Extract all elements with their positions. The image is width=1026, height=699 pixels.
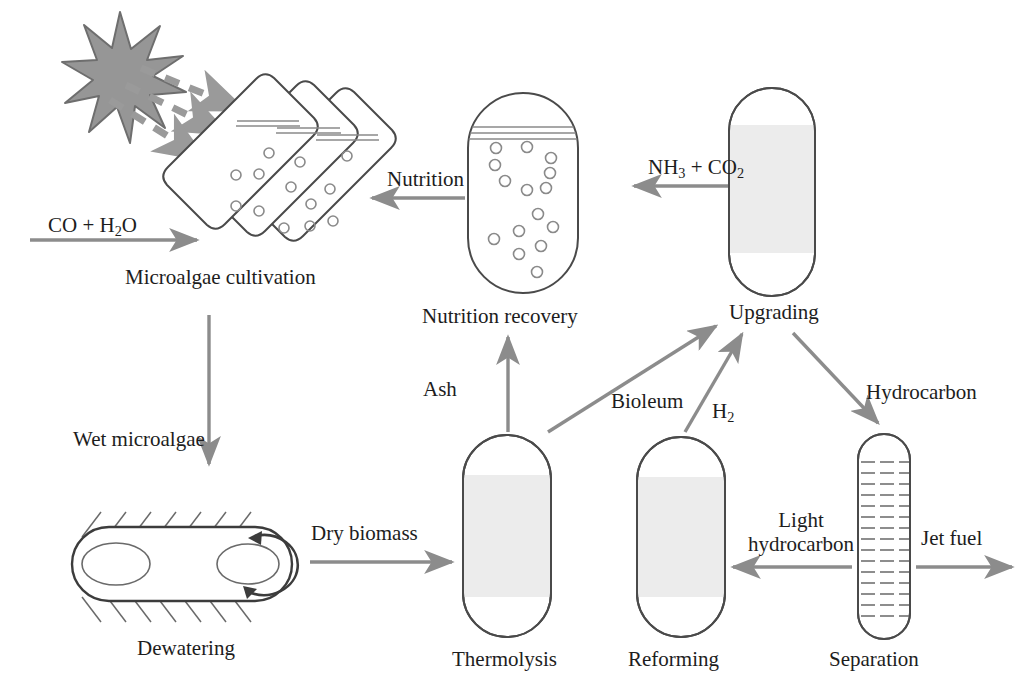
upgrading-vessel-icon: [729, 88, 815, 296]
stream-label-wet-microalgae: Wet microalgae: [73, 428, 205, 452]
dewatering-unit-icon: [72, 512, 298, 622]
nutrition-recovery-vessel-icon: [468, 93, 578, 293]
unit-label-separation: Separation: [829, 648, 919, 672]
unit-label-reforming: Reforming: [628, 648, 719, 672]
unit-label-cultivation: Microalgae cultivation: [125, 266, 316, 290]
stream-label-nutrition: Nutrition: [387, 168, 464, 192]
stream-label-jet-fuel: Jet fuel: [921, 527, 982, 551]
stream-label-bioleum: Bioleum: [611, 390, 683, 414]
unit-label-upgrading: Upgrading: [729, 301, 819, 325]
diagram-artwork: [0, 0, 1026, 699]
cultivation-unit-icon: [163, 74, 396, 241]
stream-label-h2: H2: [712, 400, 734, 425]
stream-label-feed: CO + H2O: [48, 214, 137, 239]
reforming-vessel-icon: [637, 437, 725, 637]
unit-label-dewatering: Dewatering: [137, 637, 235, 661]
diagram-canvas: CO + H2O Microalgae cultivation Nutritio…: [0, 0, 1026, 699]
separation-column-icon: [858, 434, 910, 639]
arrow-hydrocarbon: [793, 333, 878, 423]
stream-label-ash: Ash: [423, 378, 457, 402]
arrow-bioleum: [548, 326, 716, 432]
stream-label-dry-biomass: Dry biomass: [311, 522, 418, 546]
stream-label-light-hydrocarbon: Light hydrocarbon: [746, 509, 856, 556]
stream-label-nh3-co2: NH3 + CO2: [648, 156, 744, 181]
unit-label-nutrition-recovery: Nutrition recovery: [422, 305, 578, 329]
unit-label-thermolysis: Thermolysis: [452, 648, 557, 672]
stream-label-hydrocarbon: Hydrocarbon: [866, 381, 977, 405]
light-hydrocarbon-line2: hydrocarbon: [746, 533, 856, 557]
thermolysis-vessel-icon: [463, 435, 551, 637]
light-hydrocarbon-line1: Light: [746, 509, 856, 533]
